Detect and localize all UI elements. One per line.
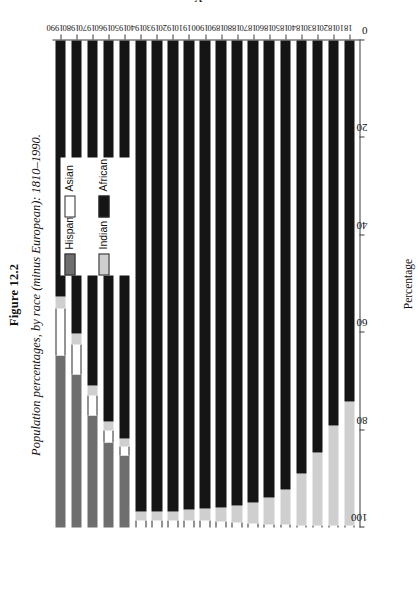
bar-row (199, 40, 210, 527)
y-tick (237, 34, 238, 39)
bar-row (183, 40, 194, 527)
bar-segment-asian (87, 395, 98, 414)
legend-item-indian: Indian (94, 219, 128, 275)
bar-segment-indian (103, 421, 114, 430)
bar-segment-asian (215, 521, 226, 527)
bar-segment-asian (167, 520, 178, 527)
y-tick-label: 1960 (94, 22, 111, 32)
bar-row (151, 40, 162, 527)
bar-row (247, 40, 258, 527)
bar-segment-african (312, 40, 323, 452)
x-axis-title: Percentage (401, 40, 413, 527)
bar-segment-african (328, 40, 339, 425)
x-tick (359, 331, 364, 332)
bar-segment-african (215, 40, 226, 507)
bar-segment-african (263, 40, 274, 497)
bar-segment-african (231, 40, 242, 505)
y-axis-line (52, 39, 360, 40)
y-tick (108, 34, 109, 39)
x-tick (359, 39, 364, 40)
bar-segment-african (296, 40, 307, 473)
legend-item-asian: Asian (60, 161, 94, 217)
x-tick-label: 80 (356, 414, 367, 426)
bar-segment-indian (215, 507, 226, 521)
bar-segment-hispanic (71, 374, 82, 527)
x-axis-line (359, 40, 360, 527)
bar-segment-asian (135, 520, 146, 527)
y-tick-label: 1890 (207, 22, 224, 32)
bar-segment-hispanic (103, 442, 114, 527)
bar-segment-asian (199, 520, 210, 527)
y-tick (221, 34, 222, 39)
bar-segment-asian (55, 308, 66, 354)
bar-segment-indian (167, 511, 178, 520)
y-tick-label: 1990 (46, 22, 63, 32)
legend-swatch-hispanic-icon (64, 253, 75, 275)
bar-segment-african (344, 40, 355, 401)
bar-segment-indian (280, 489, 291, 524)
bar-segment-indian (55, 296, 66, 308)
bar-segment-indian (151, 511, 162, 520)
legend-label-indian: Indian (96, 220, 108, 249)
bar-segment-indian (312, 452, 323, 525)
y-tick-label: 1940 (126, 22, 143, 32)
legend-item-african: African (94, 161, 128, 217)
y-tick (205, 34, 206, 39)
x-tick-label: 100 (351, 511, 368, 523)
bar-segment-hispanic (119, 455, 130, 527)
x-tick (359, 429, 364, 430)
bar-segment-indian (296, 473, 307, 524)
y-tick (92, 34, 93, 39)
y-tick (124, 34, 125, 39)
y-tick-label: 1840 (287, 22, 304, 32)
bar-segment-african (151, 40, 162, 511)
bar-segment-indian (199, 509, 210, 521)
bar-row (344, 40, 355, 527)
y-tick-label: 1950 (110, 22, 127, 32)
legend-swatch-indian-icon (98, 253, 109, 275)
bar-segment-indian (263, 497, 274, 523)
bar-row (328, 40, 339, 527)
bar-segment-indian (344, 401, 355, 525)
bar-row (296, 40, 307, 527)
plot-area: 100806040200 199019801970196019501940193… (52, 40, 377, 527)
y-tick-label: 1980 (62, 22, 79, 32)
bar-segment-asian (71, 344, 82, 374)
bar-segment-asian (151, 520, 162, 527)
y-tick-label: 1910 (174, 22, 191, 32)
bar-segment-african (135, 40, 146, 511)
bar-series-container (52, 40, 357, 527)
y-tick-label: 1870 (239, 22, 256, 32)
y-tick-label: 1920 (158, 22, 175, 32)
bar-segment-african (167, 40, 178, 511)
x-tick (359, 136, 364, 137)
bar-segment-hispanic (87, 415, 98, 527)
bar-segment-indian (135, 511, 146, 520)
y-tick-label: 1880 (223, 22, 240, 32)
bar-row (312, 40, 323, 527)
figure-number: Figure 12.2 (6, 0, 21, 589)
figure-page: Figure 12.2 Population percentages, by r… (0, 0, 418, 589)
legend-column-left: Hispanic Indian (60, 219, 128, 275)
y-tick (60, 34, 61, 39)
bar-segment-african (280, 40, 291, 489)
rotated-figure: Figure 12.2 Population percentages, by r… (0, 0, 418, 589)
bar-segment-indian (247, 502, 258, 522)
x-tick-label: 20 (356, 121, 367, 133)
x-tick-label: 60 (356, 316, 367, 328)
bar-segment-indian (231, 505, 242, 522)
y-tick-label: 1820 (319, 22, 336, 32)
y-tick-label: 1930 (142, 22, 159, 32)
legend: Hispanic Indian Asian African (60, 157, 134, 275)
bar-segment-asian (247, 523, 258, 527)
bar-segment-asian (183, 520, 194, 527)
y-tick (349, 34, 350, 39)
bar-segment-asian (263, 524, 274, 527)
y-tick (156, 34, 157, 39)
bar-segment-asian (231, 522, 242, 527)
y-tick (140, 34, 141, 39)
y-tick (188, 34, 189, 39)
y-tick-label: 1850 (271, 22, 288, 32)
y-tick (172, 34, 173, 39)
y-tick-label: 1860 (255, 22, 272, 32)
